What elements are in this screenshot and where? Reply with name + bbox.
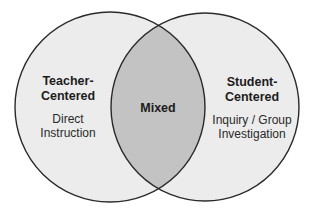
student-centered-description-line-1: Inquiry / Group — [212, 113, 292, 127]
student-centered-title-line-1: Student- — [227, 75, 278, 89]
teacher-centered-title-line-2: Centered — [41, 89, 95, 103]
teacher-centered-title-line-1: Teacher- — [42, 74, 93, 88]
student-centered-title-line-2: Centered — [225, 90, 279, 104]
teacher-centered-description-line-1: Direct — [52, 112, 84, 126]
student-centered-description-line-2: Investigation — [218, 127, 285, 141]
venn-diagram: Teacher- Centered Direct Instruction Mix… — [0, 0, 312, 223]
teacher-centered-description-line-2: Instruction — [40, 126, 95, 140]
mixed-label: Mixed — [140, 101, 175, 115]
